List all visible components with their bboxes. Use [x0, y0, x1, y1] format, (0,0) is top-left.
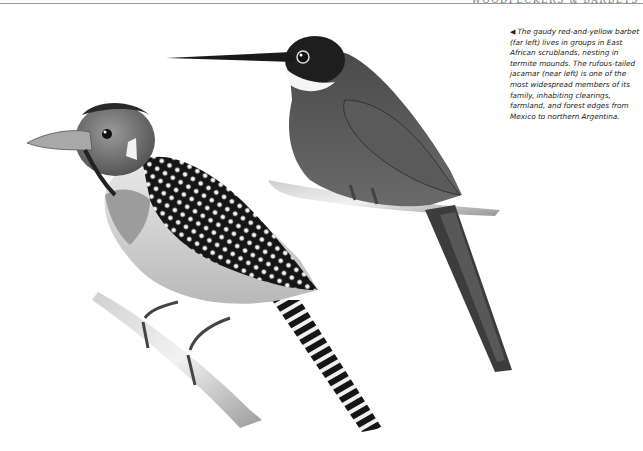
caption-text: The gaudy red-and-yellow barbet (far lef… [510, 27, 639, 121]
barbet-tail [272, 300, 382, 432]
figure-caption: ◀The gaudy red-and-yellow barbet (far le… [510, 27, 643, 122]
caption-pointer-icon: ◀ [510, 28, 515, 36]
barbet-branch [92, 292, 262, 428]
jacamar-tail [425, 205, 512, 372]
